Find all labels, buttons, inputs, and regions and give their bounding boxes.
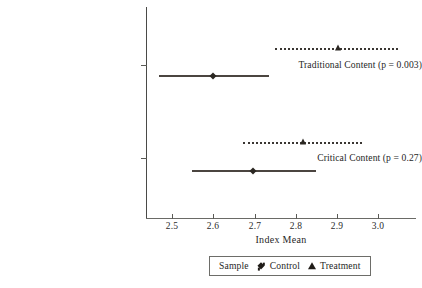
y-axis-label-critical-content: Critical Content (p = 0.27)	[281, 152, 422, 163]
dot-plot-figure: Traditional Content (p = 0.003) Critical…	[0, 0, 422, 288]
x-axis-ticklabel-2-5: 2.5	[152, 221, 192, 231]
diamond-icon	[257, 261, 266, 271]
x-axis-tick-2-6	[213, 214, 214, 219]
x-axis-tick-2-7	[255, 214, 256, 219]
y-axis-tick-0	[141, 65, 147, 66]
x-axis-tick-2-9	[337, 214, 338, 219]
x-axis-tick-3-0	[378, 214, 379, 219]
x-axis-ticklabel-2-9: 2.9	[317, 221, 357, 231]
marker-traditional-control	[209, 72, 216, 79]
x-axis-ticklabel-2-8: 2.8	[276, 221, 316, 231]
y-axis-label-traditional-content: Traditional Content (p = 0.003)	[281, 59, 422, 70]
marker-critical-treatment	[300, 139, 306, 145]
triangle-icon	[307, 261, 316, 271]
marker-traditional-treatment	[335, 45, 341, 51]
x-axis-spine	[146, 218, 416, 219]
legend-title: Sample	[219, 260, 249, 271]
legend-entry-control: Control	[257, 260, 300, 271]
y-axis-spine	[146, 7, 147, 219]
x-axis-tick-2-8	[296, 214, 297, 219]
x-axis-title: Index Mean	[146, 234, 416, 245]
y-axis-tick-1	[141, 158, 147, 159]
legend-label-control: Control	[270, 260, 300, 271]
x-axis-ticklabel-2-7: 2.7	[235, 221, 275, 231]
x-axis-tick-2-5	[172, 214, 173, 219]
legend: Sample Control Treatment	[209, 256, 371, 276]
legend-entry-treatment: Treatment	[307, 260, 360, 271]
x-axis-ticklabel-3-0: 3.0	[358, 221, 398, 231]
legend-label-treatment: Treatment	[320, 260, 360, 271]
x-axis-ticklabel-2-6: 2.6	[193, 221, 233, 231]
marker-critical-control	[249, 167, 256, 174]
